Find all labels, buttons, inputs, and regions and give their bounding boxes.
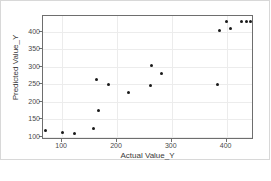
gridline-horizontal (43, 49, 252, 50)
gridline-horizontal (43, 84, 252, 85)
data-point (229, 27, 232, 30)
data-point (240, 20, 243, 23)
data-point (97, 109, 100, 112)
gridline-vertical (172, 16, 173, 138)
gridline-horizontal (43, 102, 252, 103)
data-point (216, 83, 219, 86)
gridline-horizontal (43, 67, 252, 68)
data-point (61, 131, 64, 134)
x-axis-tick-label: 100 (46, 142, 76, 149)
x-axis-tick-label: 400 (211, 142, 241, 149)
gridline-vertical (227, 16, 228, 138)
y-axis-tick-label: 350 (18, 45, 40, 52)
data-point (44, 129, 47, 132)
x-axis-title: Actual Value_Y (42, 151, 253, 160)
x-axis-tick-label: 300 (156, 142, 186, 149)
data-point (95, 78, 98, 81)
data-point (107, 83, 110, 86)
y-axis-tick-label: 300 (18, 63, 40, 70)
gridline-horizontal (43, 137, 252, 138)
chart-card: 100150200250300350400 100200300400 Actua… (0, 0, 270, 160)
data-point (225, 20, 228, 23)
data-point (249, 20, 252, 23)
data-point (92, 127, 95, 130)
data-point (127, 91, 130, 94)
y-axis-tick-label: 150 (18, 115, 40, 122)
data-point (218, 29, 221, 32)
scatter-plot: 100150200250300350400 100200300400 Actua… (1, 1, 271, 181)
gridline-horizontal (43, 32, 252, 33)
y-axis-title: Predicted Value_Y (11, 18, 20, 118)
data-point (160, 72, 163, 75)
y-axis-tick-label: 100 (18, 133, 40, 140)
gridline-vertical (117, 16, 118, 138)
y-axis-tick-label: 250 (18, 80, 40, 87)
data-point (245, 20, 248, 23)
data-point (73, 132, 76, 135)
x-axis-tick-label: 200 (101, 142, 131, 149)
y-axis-tick-label: 200 (18, 98, 40, 105)
data-point (149, 84, 152, 87)
gridline-vertical (62, 16, 63, 138)
plot-frame (42, 15, 253, 139)
y-axis-tick-label: 400 (18, 28, 40, 35)
gridline-horizontal (43, 119, 252, 120)
